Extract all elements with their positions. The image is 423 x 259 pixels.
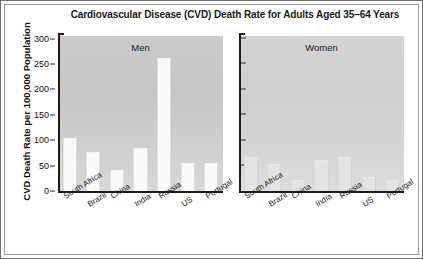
y-tick-label-250: 250: [23, 59, 49, 69]
panel-women-bars: [239, 36, 404, 191]
y-tick-label-100: 100: [23, 135, 49, 145]
x-tick-label: India: [133, 192, 152, 209]
x-tick-label: US: [361, 195, 375, 209]
y-tick-dash-0: [50, 191, 55, 192]
x-tick-label: US: [180, 195, 194, 209]
y-tick-label-50: 50: [23, 161, 49, 171]
x-tick-label: Brazil: [86, 190, 108, 208]
bar: [63, 138, 77, 191]
y-tick-label-150: 150: [23, 110, 49, 120]
bar: [181, 163, 195, 191]
panel-women: Women: [239, 36, 404, 191]
y-tick-dash-100: [50, 140, 55, 141]
bar: [362, 177, 376, 191]
x-axis-labels-women: South AfricaBrazilChinaIndiaRussiaUSPort…: [239, 193, 409, 253]
y-tick-dash-250: [50, 64, 55, 65]
bar: [133, 148, 147, 191]
chart-title: Cardiovascular Disease (CVD) Death Rate …: [49, 9, 421, 20]
x-axis-labels-men: South AfricaBrazilChinaIndiaRussiaUSPort…: [58, 193, 228, 253]
bar: [157, 58, 171, 191]
x-tick-label: India: [314, 192, 333, 209]
y-tick-dash-200: [50, 89, 55, 90]
y-tick-dash-50: [50, 166, 55, 167]
y-axis-tick-labels: 300 250 200 150 100 50 0: [21, 1, 49, 259]
y-tick-label-0: 0: [23, 186, 49, 196]
bar: [314, 160, 328, 191]
y-tick-label-200: 200: [23, 84, 49, 94]
panel-women-axis-top-cap: [239, 33, 245, 35]
x-tick-label: Brazil: [267, 190, 289, 208]
chart-figure: Cardiovascular Disease (CVD) Death Rate …: [0, 0, 423, 259]
y-tick-label-300: 300: [23, 34, 49, 44]
y-tick-dash-300: [50, 39, 55, 40]
y-tick-dash-150: [50, 115, 55, 116]
panel-men: Men: [58, 36, 223, 191]
panel-men-bars: [58, 36, 223, 191]
panel-men-axis-top-cap: [58, 33, 64, 35]
